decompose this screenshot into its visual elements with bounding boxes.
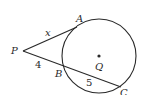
- center-label-q: Q: [95, 61, 103, 72]
- length-label-x: x: [45, 27, 51, 38]
- point-label-a: A: [75, 13, 83, 24]
- point-label-p: P: [10, 45, 18, 56]
- length-label-4: 4: [35, 59, 41, 70]
- length-label-5: 5: [86, 77, 92, 88]
- tangent-secant-diagram: P A B C Q x 4 5: [0, 0, 145, 95]
- point-label-b: B: [54, 68, 62, 79]
- point-label-c: C: [120, 87, 128, 95]
- center-point-q: [97, 54, 100, 57]
